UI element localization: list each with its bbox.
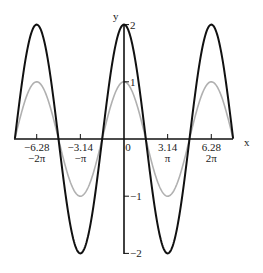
x-tick-sublabel: −π [74,152,86,164]
y-tick-label: 2 [130,19,136,31]
x-tick-sublabel: 2π [206,152,218,164]
x-tick-sublabel: π [165,152,171,164]
x-axis-label: x [244,136,250,148]
y-tick-label: −2 [130,247,142,259]
chart: −6.28−2π−3.14−π03.14π6.282π 21−1−2 x y [0,0,263,273]
x-tick-label: 0 [125,141,131,153]
y-axis-label: y [113,10,119,22]
y-tick-label: 1 [130,76,136,88]
x-tick-sublabel: −2π [28,152,46,164]
y-tick-label: −1 [130,190,142,202]
